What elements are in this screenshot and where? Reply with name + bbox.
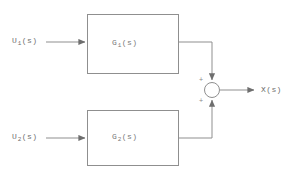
block-label-g1-suffix: (s) — [122, 38, 138, 47]
summing-junction — [205, 83, 220, 98]
diagram-vector-layer — [0, 0, 289, 177]
block-diagram-canvas: U1(s) U2(s) G1(s) G2(s) + + X(s) — [0, 0, 289, 177]
input-label-u2: U2(s) — [12, 133, 37, 143]
block-label-g2-suffix: (s) — [122, 132, 138, 141]
input-label-u2-suffix: (s) — [22, 132, 38, 141]
input-label-u1: U1(s) — [12, 37, 37, 47]
output-label-x-suffix: (s) — [266, 85, 282, 94]
block-label-g1: G1(s) — [112, 39, 137, 49]
output-label-x: X(s) — [261, 86, 282, 94]
block-label-g2: G2(s) — [112, 133, 137, 143]
sum-sign-top: + — [199, 76, 203, 83]
signal-path-g1-to-sum — [179, 42, 213, 80]
input-label-u1-suffix: (s) — [22, 36, 38, 45]
signal-path-g2-to-sum — [179, 100, 213, 138]
sum-sign-bottom: + — [199, 97, 203, 104]
